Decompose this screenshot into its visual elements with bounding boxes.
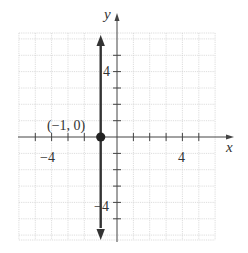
y-tick-label-neg4: −4: [94, 199, 109, 214]
x-axis: [18, 133, 234, 141]
x-tick-label-neg4: −4: [40, 150, 55, 165]
x-tick-label-4: 4: [178, 150, 185, 165]
y-axis-arrow-icon: [115, 13, 120, 21]
line-arrow-down-icon: [97, 229, 105, 240]
line-arrow-up-icon: [97, 35, 105, 46]
y-tick-label-4: 4: [103, 64, 110, 79]
coordinate-plane: (−1, 0) −4 4 4 −4 x y: [0, 0, 248, 253]
point-label: (−1, 0): [47, 118, 86, 134]
point-neg1-0: [96, 132, 105, 141]
y-axis-label: y: [102, 6, 111, 22]
y-axis: [113, 13, 121, 242]
x-axis-label: x: [225, 139, 233, 155]
